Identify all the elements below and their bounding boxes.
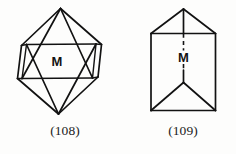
figure-109: M (109) bbox=[130, 0, 236, 154]
face-label-m-109: M bbox=[178, 50, 189, 65]
edge-connector-upper-left bbox=[22, 45, 27, 46]
edge-roof-left bbox=[151, 9, 184, 34]
edge-girdle-upper-horizontal bbox=[27, 44, 97, 45]
edge-connector-upper-right bbox=[96, 44, 102, 45]
edge-right-to-lowerright bbox=[98, 45, 102, 78]
edge-base-right bbox=[184, 83, 216, 111]
edge-left-to-upperleft bbox=[18, 46, 22, 79]
edge-roof-right bbox=[184, 9, 216, 34]
figure-109-caption: (109) bbox=[130, 124, 236, 138]
figure-108: M (108) bbox=[0, 0, 130, 154]
triangular-prism-drawing: M bbox=[130, 0, 236, 124]
edge-bottom-to-left bbox=[18, 79, 59, 115]
edge-girdle-lower-horizontal bbox=[22, 78, 93, 79]
figure-108-caption: (108) bbox=[0, 124, 130, 138]
face-label-m-108: M bbox=[52, 54, 63, 69]
figure-sheet: M (108) bbox=[0, 0, 236, 154]
prism-bottom-edges bbox=[151, 70, 216, 111]
edge-connector-lower-right bbox=[93, 77, 99, 78]
edge-lowerright-to-bottom bbox=[59, 77, 99, 114]
prism-top-edges bbox=[151, 9, 216, 34]
edge-base-left bbox=[151, 83, 184, 111]
octahedron-drawing: M bbox=[0, 0, 130, 124]
edge-top-to-right bbox=[61, 9, 102, 45]
edge-upperleft-to-top bbox=[22, 9, 61, 46]
